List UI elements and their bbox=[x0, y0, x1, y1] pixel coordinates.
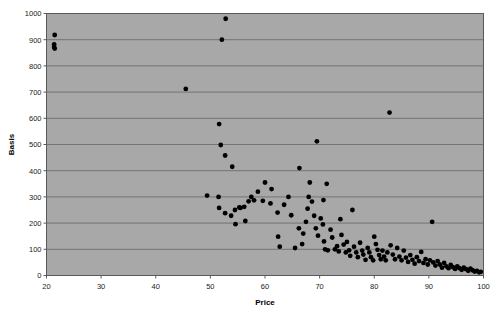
data-point bbox=[330, 235, 335, 240]
data-point bbox=[312, 213, 317, 218]
data-point bbox=[296, 226, 301, 231]
data-point bbox=[52, 33, 57, 38]
y-tick-label: 600 bbox=[29, 114, 42, 123]
data-point bbox=[217, 206, 222, 211]
data-point bbox=[390, 252, 395, 257]
data-point bbox=[380, 248, 385, 253]
y-axis-title: Basis bbox=[7, 133, 16, 155]
data-point bbox=[430, 219, 435, 224]
scatter-chart-figure: 01002003004005006007008009001000 2030405… bbox=[0, 0, 503, 314]
data-point bbox=[233, 222, 238, 227]
data-point bbox=[478, 269, 483, 274]
data-point bbox=[377, 253, 382, 258]
data-point bbox=[345, 240, 350, 245]
data-point bbox=[352, 244, 357, 249]
data-point bbox=[218, 143, 223, 148]
data-point bbox=[354, 250, 359, 255]
data-point bbox=[383, 258, 388, 263]
x-axis-title: Price bbox=[255, 298, 275, 307]
data-point bbox=[289, 213, 294, 218]
data-point bbox=[406, 259, 411, 264]
data-point bbox=[276, 234, 281, 239]
data-point bbox=[348, 253, 353, 258]
x-tick-label: 80 bbox=[370, 282, 378, 291]
data-point bbox=[305, 206, 310, 211]
data-point bbox=[282, 202, 287, 207]
data-point bbox=[260, 198, 265, 203]
data-point bbox=[408, 253, 413, 258]
data-point bbox=[375, 247, 380, 252]
data-point bbox=[419, 250, 424, 255]
data-point bbox=[230, 164, 235, 169]
data-point bbox=[318, 216, 323, 221]
y-tick-label: 800 bbox=[29, 62, 42, 71]
data-point bbox=[393, 257, 398, 262]
data-point bbox=[372, 234, 377, 239]
data-point bbox=[310, 199, 315, 204]
data-point bbox=[304, 219, 309, 224]
data-point bbox=[263, 180, 268, 185]
data-point bbox=[229, 213, 234, 218]
data-point bbox=[286, 195, 291, 200]
data-point bbox=[440, 265, 445, 270]
y-tick-label: 400 bbox=[29, 167, 42, 176]
data-point bbox=[387, 110, 392, 115]
data-point bbox=[355, 255, 360, 260]
data-point bbox=[242, 204, 247, 209]
data-point bbox=[269, 187, 274, 192]
data-point bbox=[275, 210, 280, 215]
data-point bbox=[246, 199, 251, 204]
data-point bbox=[183, 87, 188, 92]
data-point bbox=[324, 181, 329, 186]
y-tick-label: 700 bbox=[29, 88, 42, 97]
data-point bbox=[219, 37, 224, 42]
data-point bbox=[347, 248, 352, 253]
data-point bbox=[328, 227, 333, 232]
scatter-plot: 01002003004005006007008009001000 2030405… bbox=[0, 0, 503, 314]
x-tick-label: 50 bbox=[206, 282, 214, 291]
data-point bbox=[223, 16, 228, 21]
y-tick-label: 300 bbox=[29, 193, 42, 202]
data-point bbox=[399, 258, 404, 263]
data-point bbox=[256, 189, 261, 194]
data-point bbox=[385, 250, 390, 255]
data-point bbox=[363, 257, 368, 262]
data-point bbox=[412, 261, 417, 266]
data-point bbox=[325, 248, 330, 253]
data-point bbox=[223, 211, 228, 216]
data-point bbox=[306, 195, 311, 200]
data-point bbox=[404, 255, 409, 260]
data-point bbox=[301, 231, 306, 236]
data-point bbox=[277, 244, 282, 249]
data-point bbox=[358, 240, 363, 245]
data-point bbox=[205, 193, 210, 198]
data-point bbox=[371, 258, 376, 263]
x-tick-label: 70 bbox=[315, 282, 323, 291]
data-point bbox=[216, 195, 221, 200]
data-point bbox=[316, 233, 321, 238]
data-point bbox=[338, 217, 343, 222]
data-point bbox=[335, 244, 340, 249]
data-point bbox=[417, 259, 422, 264]
data-point bbox=[322, 239, 327, 244]
data-point bbox=[373, 242, 378, 247]
data-point bbox=[300, 242, 305, 247]
x-tick-label: 40 bbox=[152, 282, 160, 291]
data-point bbox=[433, 263, 438, 268]
data-point bbox=[350, 208, 355, 213]
y-tick-label: 500 bbox=[29, 140, 42, 149]
data-point bbox=[252, 198, 257, 203]
x-tick-label: 30 bbox=[97, 282, 105, 291]
data-point bbox=[223, 153, 228, 158]
data-point bbox=[217, 122, 222, 127]
y-tick-label: 900 bbox=[29, 36, 42, 45]
data-point bbox=[314, 139, 319, 144]
data-point bbox=[243, 219, 248, 224]
data-point bbox=[307, 180, 312, 185]
y-tick-label: 100 bbox=[29, 245, 42, 254]
data-point bbox=[367, 250, 372, 255]
data-point bbox=[321, 198, 326, 203]
x-tick-label: 20 bbox=[42, 282, 50, 291]
data-point bbox=[395, 246, 400, 251]
data-point bbox=[321, 222, 326, 227]
